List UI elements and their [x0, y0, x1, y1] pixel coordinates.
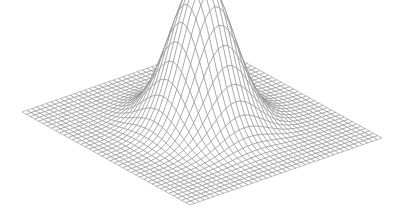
gaussian-surface-plot — [0, 0, 396, 214]
wireframe-mesh — [22, 0, 382, 205]
